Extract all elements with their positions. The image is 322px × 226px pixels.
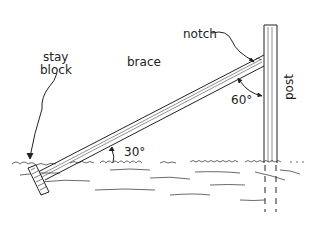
angle-30-arc (112, 150, 114, 163)
notch-label: notch (183, 28, 217, 40)
stay-label: stay (43, 51, 68, 63)
stay-leader (30, 73, 57, 157)
post-label: post (283, 74, 295, 100)
post (264, 25, 277, 212)
fence-brace-diagram (0, 0, 322, 226)
angle-60-label: 60° (231, 94, 252, 106)
angle-30-label: 30° (124, 146, 145, 158)
brace-label: brace (127, 56, 161, 68)
notch-leader (212, 32, 254, 61)
block-label: block (40, 64, 72, 76)
